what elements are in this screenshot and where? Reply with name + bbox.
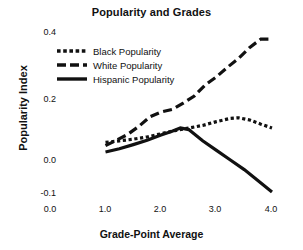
- chart-figure: Popularity and Grades Popularity Index G…: [0, 0, 303, 250]
- legend-item-hispanic: Hispanic Popularity: [57, 72, 174, 86]
- legend-item-black: Black Popularity: [57, 44, 174, 58]
- legend-label: Hispanic Popularity: [93, 74, 174, 85]
- plot-area: [0, 0, 303, 250]
- chart-legend: Black Popularity White Popularity Hispan…: [57, 44, 174, 86]
- legend-item-white: White Popularity: [57, 58, 174, 72]
- legend-swatch-solid: [57, 74, 87, 84]
- legend-swatch-dotted: [57, 46, 87, 56]
- legend-label: Black Popularity: [93, 46, 161, 57]
- legend-swatch-dashed: [57, 60, 87, 70]
- legend-label: White Popularity: [93, 60, 162, 71]
- series-line-hispanic: [106, 128, 273, 192]
